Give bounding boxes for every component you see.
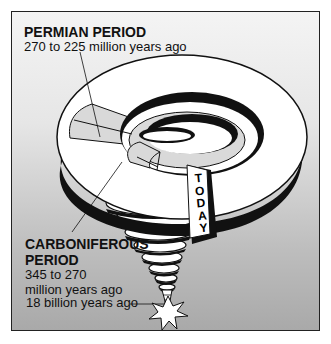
spiral-outer-ring — [57, 55, 307, 236]
carboniferous-title-line1: CARBONIFEROUS — [25, 236, 149, 252]
permian-label: PERMIAN PERIOD 270 to 225 million years … — [24, 24, 187, 55]
permian-range: 270 to 225 million years ago — [24, 40, 187, 55]
diagram-frame: T O D A Y PERMIAN PERIOD 270 to 225 mill… — [11, 11, 320, 331]
carboniferous-range-line1: 345 to 270 — [25, 268, 149, 283]
permian-title: PERMIAN PERIOD — [24, 24, 187, 40]
carboniferous-label: CARBONIFEROUS PERIOD 345 to 270 million … — [25, 236, 149, 298]
carboniferous-title-line2: PERIOD — [25, 252, 149, 268]
big-bang-starburst — [149, 296, 188, 330]
origin-label: 18 billion years ago — [26, 296, 138, 311]
today-letter: Y — [195, 221, 212, 235]
